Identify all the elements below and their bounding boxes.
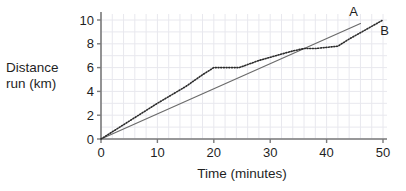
x-tick-label: 40 [319,145,333,160]
y-tick-label: 0 [87,132,94,147]
y-tick-label: 4 [87,84,94,99]
axis-ticks: 024681001020304050 [80,13,391,161]
series-line-a [101,24,360,139]
plot-area: 024681001020304050 AB [0,0,406,191]
x-tick-label: 50 [376,145,390,160]
series-label-a: A [349,4,358,19]
x-tick-label: 10 [150,145,164,160]
y-tick-label: 10 [80,13,94,28]
x-axis-label: Time (minutes) [101,166,383,181]
x-tick-label: 30 [263,145,277,160]
y-tick-label: 6 [87,60,94,75]
series-label-b: B [380,23,389,38]
y-tick-label: 2 [87,108,94,123]
y-tick-label: 8 [87,36,94,51]
x-tick-label: 20 [207,145,221,160]
distance-time-chart: Distance run (km) 024681001020304050 AB … [0,0,406,191]
x-tick-label: 0 [97,145,104,160]
